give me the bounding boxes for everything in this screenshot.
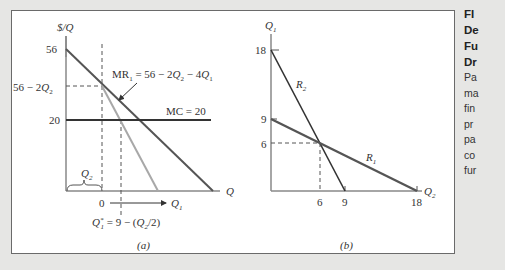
caption-body-line: ma bbox=[464, 86, 505, 102]
figure-diagram: $/Q Q 56 56 − 2Q2 20 MC = 20 MR1 = 56 − … bbox=[0, 0, 505, 270]
tick-q1-6: 6 bbox=[261, 138, 267, 150]
tick-56: 56 bbox=[46, 43, 58, 55]
caption-body-line: pr bbox=[464, 117, 505, 133]
mr1-label: MR1 = 56 − 2Q2 − 4Q1 bbox=[112, 68, 213, 83]
y-axis-label-b: Q1 bbox=[265, 19, 276, 34]
caption-body-line: pa bbox=[464, 132, 505, 148]
panel-b-label: (b) bbox=[340, 239, 353, 252]
caption-body-line: fin bbox=[464, 101, 505, 117]
caption-title-line: Fu bbox=[464, 38, 505, 54]
panel-a: $/Q Q 56 56 − 2Q2 20 MC = 20 MR1 = 56 − … bbox=[13, 21, 234, 252]
r1-line bbox=[271, 119, 417, 191]
r2-label: R2 bbox=[295, 78, 307, 93]
x-axis-label-a: Q bbox=[226, 185, 234, 197]
q2-brace-label: Q2 bbox=[81, 167, 93, 182]
q1-axis-label: Q1 bbox=[171, 197, 182, 212]
tick-q1-18: 18 bbox=[255, 44, 267, 56]
mc-label: MC = 20 bbox=[166, 105, 206, 117]
y-axis-label-a: $/Q bbox=[57, 21, 74, 33]
caption-body-line: fur bbox=[464, 163, 505, 179]
origin-label: 0 bbox=[99, 197, 105, 209]
x-axis-label-b: Q2 bbox=[424, 185, 436, 200]
r2-line bbox=[271, 50, 345, 191]
tick-20: 20 bbox=[49, 114, 61, 126]
mr1-line bbox=[102, 86, 158, 191]
panel-b: Q1 Q2 18 9 6 6 9 18 R2 R1 (b) bbox=[255, 19, 436, 252]
tick-q2-6: 6 bbox=[317, 196, 323, 208]
caption-title-line: FI bbox=[464, 6, 505, 22]
caption-title-line: Dr bbox=[464, 54, 505, 70]
caption-body-line: Pa bbox=[464, 70, 505, 86]
caption-body-line: co bbox=[464, 148, 505, 164]
caption-title-line: De bbox=[464, 22, 505, 38]
r1-label: R1 bbox=[365, 151, 376, 166]
tick-q2-18: 18 bbox=[411, 196, 423, 208]
panel-a-label: (a) bbox=[137, 239, 150, 252]
tick-q1-9: 9 bbox=[261, 113, 267, 125]
tick-q2-9: 9 bbox=[342, 196, 348, 208]
tick-56-2q2: 56 − 2Q2 bbox=[13, 81, 53, 96]
q1-star-label: Q*1 = 9 − (Q2/2) bbox=[92, 216, 161, 231]
figure-caption: FI De Fu Dr Pa ma fin pr pa co fur bbox=[464, 6, 505, 179]
